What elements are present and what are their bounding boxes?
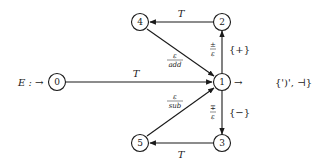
edge-1-to-2: ± ε {+} [210,31,250,73]
node-0: 0 [49,74,66,91]
diagram-svg: E : → T T ε add ± ε {+} [0,0,321,165]
start-indicator: E : → [17,77,44,88]
node-label-3: 3 [219,138,225,148]
node-1: 1 [214,74,231,91]
edge-label-3-5: T [178,149,186,160]
edge-label-1-3-num: ∓ [210,104,216,112]
start-label: E : → [17,77,44,88]
node-5: 5 [132,135,149,152]
edge-label-4-1-den: add [168,61,182,69]
node-label-0: 0 [54,77,60,87]
edge-label-1-3-den: ε [211,113,215,121]
node-label-5: 5 [137,138,143,148]
automaton-diagram: E : → T T ε add ± ε {+} [0,0,321,165]
final-indicator: → {')', ⊣} [234,77,312,88]
final-label: {')', ⊣} [275,77,312,88]
edge-label-1-2-num: ± [210,41,216,49]
edge-label-5-1-num: ε [173,93,177,101]
edge-3-to-5: T [150,143,213,160]
edge-4-to-1: ε add [147,29,214,76]
node-label-2: 2 [219,17,225,27]
edge-5-to-1: ε sub [147,88,214,136]
node-label-4: 4 [137,17,143,27]
edge-label-1-2-den: ε [211,50,215,58]
edge-2-to-4: T [150,8,213,22]
edge-0-to-1: T [66,68,212,82]
node-4: 4 [132,14,149,31]
final-arrow: → [234,77,243,88]
edge-label-0-1: T [133,68,141,79]
edge-1-to-3: ∓ ε {−} [210,91,250,134]
edge-side-label-1-3: {−} [229,107,250,118]
edge-label-5-1-den: sub [169,102,182,110]
edge-side-label-1-2: {+} [229,44,250,55]
edge-label-2-4: T [178,8,186,19]
edge-label-4-1-num: ε [173,52,177,60]
node-3: 3 [214,135,231,152]
node-2: 2 [214,14,231,31]
node-label-1: 1 [219,77,225,87]
